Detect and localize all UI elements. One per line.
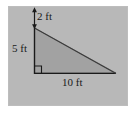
dimension-label-left: 5 ft	[12, 43, 27, 54]
diagram-svg	[0, 0, 135, 113]
dimension-label-base: 10 ft	[62, 77, 82, 88]
figure-root: 2 ft 5 ft 10 ft	[0, 0, 135, 113]
dimension-label-top: 2 ft	[37, 11, 52, 22]
